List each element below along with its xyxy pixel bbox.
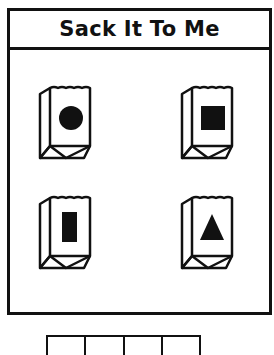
square-shape bbox=[201, 106, 225, 130]
sack-square bbox=[178, 80, 238, 170]
paper-sack-triangle-icon bbox=[178, 190, 238, 280]
answer-cell-1[interactable] bbox=[48, 337, 86, 355]
sack-triangle bbox=[178, 190, 238, 280]
puzzle-title: Sack It To Me bbox=[59, 17, 220, 41]
sack-circle bbox=[36, 80, 96, 170]
triangle-shape bbox=[200, 214, 224, 240]
answer-grid bbox=[46, 335, 201, 355]
answer-cell-2[interactable] bbox=[86, 337, 124, 355]
paper-sack-rectangle-icon bbox=[36, 190, 96, 280]
sack-rectangle bbox=[36, 190, 96, 280]
rectangle-shape bbox=[62, 212, 77, 242]
answer-cell-4[interactable] bbox=[163, 337, 199, 355]
answer-cell-3[interactable] bbox=[125, 337, 163, 355]
paper-sack-circle-icon bbox=[36, 80, 96, 170]
circle-shape bbox=[59, 106, 83, 130]
paper-sack-square-icon bbox=[178, 80, 238, 170]
title-bar: Sack It To Me bbox=[10, 11, 269, 50]
